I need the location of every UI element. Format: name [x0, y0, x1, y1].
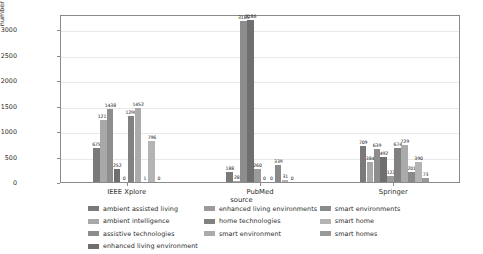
bar-value-label: 1438: [105, 103, 116, 108]
legend-swatch-icon: [204, 219, 215, 224]
bar-value-label: 390: [414, 156, 422, 161]
x-tick-label: Springer: [333, 188, 453, 196]
x-tick-mark: [393, 183, 394, 186]
bar: [422, 178, 429, 182]
bar: [142, 182, 149, 183]
legend-swatch-icon: [320, 219, 331, 224]
bar-value-label: 252: [113, 163, 121, 168]
bar-value-label: 0: [263, 176, 266, 181]
gridline: [61, 31, 459, 32]
legend-label: home technologies: [219, 217, 281, 225]
bar-value-label: 1452: [132, 102, 143, 107]
legend-swatch-icon: [88, 219, 99, 224]
bar-value-label: 0: [123, 176, 126, 181]
bar: [114, 169, 121, 182]
bar-value-label: 1: [144, 176, 147, 181]
x-tick-label: IEEE Xplore: [67, 188, 187, 196]
y-tick-label: 500: [0, 154, 17, 162]
bar-chart-figure: number of relevant articles 050010001500…: [0, 0, 483, 254]
gridline: [61, 108, 459, 109]
bar-value-label: 0: [157, 176, 160, 181]
bar-value-label: 0: [291, 176, 294, 181]
bar: [387, 176, 394, 182]
bar-value-label: 28: [234, 175, 240, 180]
bar: [282, 180, 289, 182]
y-tick-label: 1500: [0, 103, 17, 111]
y-axis-title: number of relevant articles: [0, 0, 5, 42]
legend-item[interactable]: home technologies: [204, 216, 320, 227]
bar-value-label: 188: [226, 166, 234, 171]
bar-value-label: 260: [253, 163, 261, 168]
legend-item[interactable]: ambient assisted living: [88, 203, 204, 214]
bar: [100, 120, 107, 182]
bar: [254, 169, 261, 182]
bar-value-label: 31: [282, 174, 288, 179]
bar-value-label: 0: [270, 176, 273, 181]
gridline: [61, 57, 459, 58]
bar: [240, 21, 247, 182]
legend-item[interactable]: smart home: [320, 216, 418, 227]
bar-value-label: 492: [380, 151, 388, 156]
legend-label: ambient intelligence: [103, 217, 170, 225]
legend-label: enhanced living environments: [219, 205, 317, 213]
legend-swatch-icon: [88, 244, 99, 249]
bar: [93, 148, 100, 182]
plot-area: 6751211143825201298145217960188283165318…: [60, 15, 460, 183]
legend-item[interactable]: ambient intelligence: [88, 216, 204, 227]
bar: [408, 172, 415, 182]
y-tick-label: 1000: [0, 128, 17, 136]
legend-column-3: smart environmentssmart homesmart homes: [320, 203, 418, 252]
y-tick-label: 2500: [0, 52, 17, 60]
legend-swatch-icon: [320, 206, 331, 211]
bar-value-label: 639: [373, 143, 381, 148]
bar: [401, 145, 408, 182]
legend-item[interactable]: enhanced living environment: [88, 241, 204, 252]
legend-column-1: ambient assisted livingambient intellige…: [88, 203, 204, 252]
y-tick-label: 3000: [0, 26, 17, 34]
legend-item[interactable]: smart homes: [320, 228, 418, 239]
bar-value-label: 709: [359, 140, 367, 145]
bar-value-label: 3186: [245, 14, 256, 19]
bar: [226, 172, 233, 182]
legend-label: assistive technologies: [103, 230, 175, 238]
bar: [135, 108, 142, 182]
bar: [367, 162, 374, 182]
legend-label: smart home: [335, 217, 374, 225]
gridline: [61, 133, 459, 134]
x-tick-mark: [127, 183, 128, 186]
chart-legend: ambient assisted livingambient intellige…: [88, 203, 418, 252]
legend-label: smart environment: [219, 230, 281, 238]
legend-item[interactable]: smart environment: [204, 228, 320, 239]
bar: [247, 20, 254, 182]
legend-label: ambient assisted living: [103, 205, 178, 213]
legend-swatch-icon: [88, 206, 99, 211]
legend-label: smart environments: [335, 205, 401, 213]
bar: [107, 109, 114, 182]
bar-value-label: 339: [274, 159, 282, 164]
bar: [148, 141, 155, 182]
x-tick-mark: [260, 183, 261, 186]
bar: [233, 181, 240, 182]
legend-label: enhanced living environment: [103, 242, 198, 250]
bar-value-label: 729: [400, 139, 408, 144]
bar: [360, 146, 367, 182]
gridline: [61, 82, 459, 83]
y-tick-label: 2000: [0, 77, 17, 85]
bar: [275, 165, 282, 182]
legend-item[interactable]: assistive technologies: [88, 228, 204, 239]
legend-label: smart homes: [335, 230, 378, 238]
y-tick-mark: [57, 183, 60, 184]
legend-item[interactable]: smart environments: [320, 203, 418, 214]
bar-value-label: 73: [423, 172, 429, 177]
y-tick-label: 0: [0, 179, 17, 187]
legend-swatch-icon: [320, 231, 331, 236]
x-tick-label: PubMed: [200, 188, 320, 196]
legend-swatch-icon: [204, 206, 215, 211]
bar-value-label: 796: [148, 135, 156, 140]
legend-item[interactable]: enhanced living environments: [204, 203, 320, 214]
legend-swatch-icon: [88, 231, 99, 236]
bar: [128, 116, 135, 182]
legend-column-2: enhanced living environmentshome technol…: [204, 203, 320, 252]
legend-swatch-icon: [204, 231, 215, 236]
bar: [394, 148, 401, 182]
